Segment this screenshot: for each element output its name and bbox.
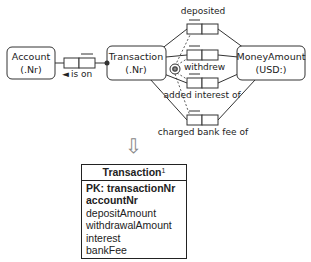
table-name: Transaction [103,166,162,178]
exclusive-or-constraint-icon[interactable] [170,64,180,74]
mandatory-dot [105,61,110,66]
column-interest: interest [86,232,182,245]
fact-reading: deposited [181,6,225,16]
fact-reading: added interest of [163,90,241,100]
table-columns: PK: transactionNr accountNr depositAmoun… [82,181,186,258]
entity-name: Account [12,51,51,62]
entity-transaction[interactable]: Transaction (.Nr) [105,46,167,80]
column-withdrawal-amount: withdrawalAmount [86,219,182,232]
entity-account[interactable]: Account (.Nr) [7,47,55,79]
entity-name: MoneyAmount [237,51,306,62]
fact-type-is-on[interactable]: ◄ is on [62,54,95,79]
mapping-arrow-icon: ⇩ [125,136,142,156]
entity-money-amount[interactable]: MoneyAmount (USD:) [237,46,306,80]
entity-ref: (.Nr) [20,64,41,75]
entity-ref: (USD:) [256,64,287,75]
table-header: Transaction1 [82,165,186,181]
fact-type-withdrew[interactable]: withdrew [184,46,225,72]
fact-reading: charged bank fee of [158,127,249,137]
column-deposit-amount: depositAmount [86,207,182,220]
relational-table-transaction[interactable]: Transaction1 PK: transactionNr accountNr… [81,164,187,259]
direction-arrow-icon: ◄ [62,69,69,79]
fact-reading: withdrew [184,62,225,72]
column-bank-fee: bankFee [86,244,182,257]
entity-ref: (.Nr) [125,64,146,75]
column-account-nr: accountNr [86,194,182,207]
fact-type-charged-bank-fee-of[interactable]: charged bank fee of [158,111,249,137]
table-footnote: 1 [162,167,166,174]
column-primary-key: PK: transactionNr [86,182,182,195]
fact-reading: is on [71,69,92,79]
entity-name: Transaction [108,51,163,62]
